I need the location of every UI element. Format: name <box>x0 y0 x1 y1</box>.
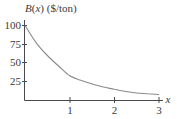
x-tick-label-2: 2 <box>112 104 118 116</box>
x-axis-label: x <box>165 93 171 105</box>
y-tick-label-75: 75 <box>10 38 22 50</box>
chart: B(x) ($/ton) 100 75 50 25 1 2 3 x <box>0 0 178 119</box>
y-tick-label-100: 100 <box>5 19 22 31</box>
y-tick-label-25: 25 <box>10 75 22 87</box>
y-tick-label-50: 50 <box>10 56 22 68</box>
x-tick-label-1: 1 <box>67 104 73 116</box>
b-of-x-curve <box>25 26 159 95</box>
x-tick-label-3: 3 <box>156 104 162 116</box>
chart-title: B(x) ($/ton) <box>25 2 77 15</box>
